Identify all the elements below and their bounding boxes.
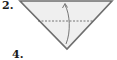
paper-triangle bbox=[20, 1, 112, 49]
fold-diagram bbox=[0, 0, 117, 60]
